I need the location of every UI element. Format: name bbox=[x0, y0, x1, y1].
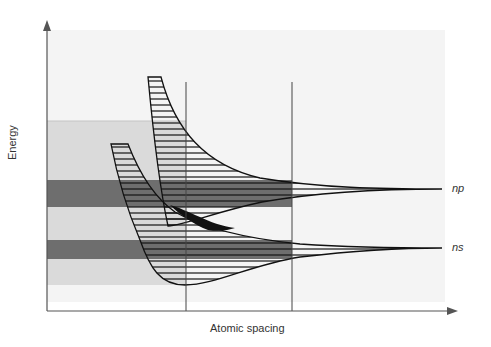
y-axis-label: Energy bbox=[6, 125, 18, 160]
band-diagram bbox=[0, 0, 491, 347]
y-axis-arrow-icon bbox=[43, 20, 51, 31]
x-axis-arrow-icon bbox=[447, 307, 458, 315]
np-level-label: np bbox=[452, 182, 464, 194]
ns-level-label: ns bbox=[452, 241, 464, 253]
x-axis-label: Atomic spacing bbox=[210, 322, 285, 334]
